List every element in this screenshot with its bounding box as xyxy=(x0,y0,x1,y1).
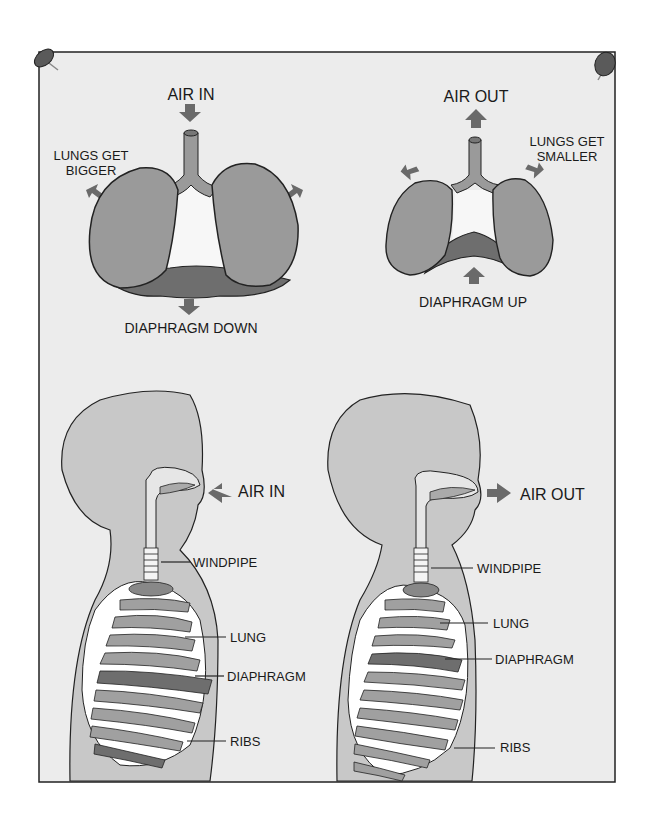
air-out-title: AIR OUT xyxy=(444,88,509,105)
lungs-bigger-label-line1: LUNGS GET xyxy=(53,148,128,163)
diaphragm-down-label: DIAPHRAGM DOWN xyxy=(125,320,258,336)
air-in-label: AIR IN xyxy=(238,483,285,500)
lung-label: LUNG xyxy=(493,616,529,631)
air-in-title: AIR IN xyxy=(167,86,214,103)
ribs-label: RIBS xyxy=(230,734,261,749)
windpipe xyxy=(144,548,158,580)
lungs-bigger-label-line2: BIGGER xyxy=(66,163,117,178)
lung-label: LUNG xyxy=(230,630,266,645)
air-out-label: AIR OUT xyxy=(520,486,585,503)
windpipe-label: WINDPIPE xyxy=(477,561,542,576)
diaphragm-label: DIAPHRAGM xyxy=(495,652,574,667)
ribs-label: RIBS xyxy=(500,740,531,755)
lungs-smaller-label-line2: SMALLER xyxy=(537,149,598,164)
diaphragm-label: DIAPHRAGM xyxy=(227,669,306,684)
windpipe-label: WINDPIPE xyxy=(193,555,258,570)
breathing-diagram: AIR IN LUNGS GET BIGGER DIAPHRAGM DOWN A… xyxy=(0,0,647,831)
diaphragm-up-label: DIAPHRAGM UP xyxy=(419,294,527,310)
windpipe xyxy=(414,548,428,582)
lungs-smaller-label-line1: LUNGS GET xyxy=(529,134,604,149)
